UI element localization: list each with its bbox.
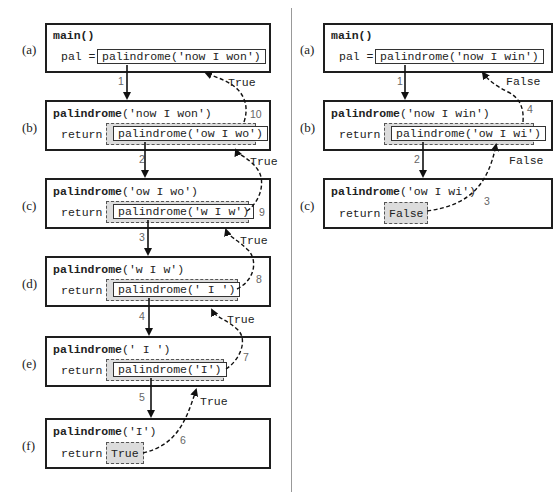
call-step-number: 3 xyxy=(139,231,145,243)
call-step-number: 2 xyxy=(414,153,420,165)
frame-palindrome-c: palindrome('ow I wi') return False xyxy=(323,178,553,229)
frame-palindrome-b: palindrome('now I won') return palindrom… xyxy=(45,100,271,151)
frame-label-e: (e) xyxy=(22,356,36,372)
return-keyword: return xyxy=(339,207,380,220)
return-value-label: False xyxy=(509,154,544,167)
frame-palindrome-e: palindrome(' I ') return palindrome('I') xyxy=(45,336,271,387)
frame-title: palindrome('ow I wi') xyxy=(331,185,476,198)
frame-title: main() xyxy=(53,29,94,42)
frame-main: main() pal = palindrome('now I win') xyxy=(323,23,553,73)
return-value-label: True xyxy=(227,313,255,326)
frame-label-b: (b) xyxy=(300,120,315,136)
base-case-value: False xyxy=(389,207,424,220)
call-box: palindrome('w I w') xyxy=(113,204,254,219)
return-value-label: True xyxy=(200,395,228,408)
return-step-number: 3 xyxy=(484,195,490,207)
assignment-prefix: pal = xyxy=(339,50,374,63)
frame-label-c: (c) xyxy=(300,198,314,214)
frame-label-a: (a) xyxy=(22,42,36,58)
call-box: palindrome('now I won') xyxy=(97,49,266,64)
frame-palindrome-b: palindrome('now I win') return palindrom… xyxy=(323,100,553,151)
return-value-label: True xyxy=(250,155,278,168)
call-box: palindrome('ow I wi') xyxy=(391,126,546,141)
return-value-label: False xyxy=(506,75,541,88)
return-step-number: 9 xyxy=(259,206,265,218)
panel-divider xyxy=(291,8,292,492)
assignment-prefix: pal = xyxy=(61,50,96,63)
frame-label-c: (c) xyxy=(22,198,36,214)
return-step-number: 6 xyxy=(180,434,186,446)
return-keyword: return xyxy=(61,447,102,460)
call-box: palindrome('ow I wo') xyxy=(113,126,268,141)
call-box: palindrome('I') xyxy=(113,362,227,377)
return-step-number: 8 xyxy=(256,273,262,285)
return-keyword: return xyxy=(61,284,102,297)
return-value-label: True xyxy=(240,234,268,247)
return-keyword: return xyxy=(61,128,102,141)
frame-title: palindrome('now I win') xyxy=(331,107,490,120)
frame-title: palindrome('now I won') xyxy=(53,107,212,120)
return-step-number: 10 xyxy=(250,108,262,120)
return-keyword: return xyxy=(339,128,380,141)
call-box: palindrome('now I win') xyxy=(375,49,544,64)
call-step-number: 2 xyxy=(139,153,145,165)
frame-palindrome-f: palindrome('I') return True xyxy=(45,418,271,469)
return-value-label: True xyxy=(228,76,256,89)
call-box: palindrome(' I ') xyxy=(113,282,240,297)
frame-palindrome-d: palindrome('w I w') return palindrome(' … xyxy=(45,256,271,307)
frame-title: main() xyxy=(331,29,372,42)
frame-main: main() pal = palindrome('now I won') xyxy=(45,23,271,73)
frame-label-b: (b) xyxy=(22,120,37,136)
call-step-number: 5 xyxy=(139,391,145,403)
call-step-number: 1 xyxy=(118,75,124,87)
frame-label-a: (a) xyxy=(300,42,314,58)
return-keyword: return xyxy=(61,364,102,377)
call-step-number: 4 xyxy=(139,310,145,322)
return-step-number: 7 xyxy=(243,351,249,363)
return-step-number: 4 xyxy=(527,103,533,115)
frame-title: palindrome('I') xyxy=(53,425,157,438)
base-case-value: True xyxy=(111,447,139,460)
frame-title: palindrome('ow I wo') xyxy=(53,185,198,198)
call-step-number: 1 xyxy=(397,75,403,87)
frame-title: palindrome(' I ') xyxy=(53,343,170,356)
frame-title: palindrome('w I w') xyxy=(53,263,184,276)
return-keyword: return xyxy=(61,206,102,219)
frame-label-d: (d) xyxy=(22,276,37,292)
frame-label-f: (f) xyxy=(22,438,35,454)
frame-palindrome-c: palindrome('ow I wo') return palindrome(… xyxy=(45,178,271,229)
